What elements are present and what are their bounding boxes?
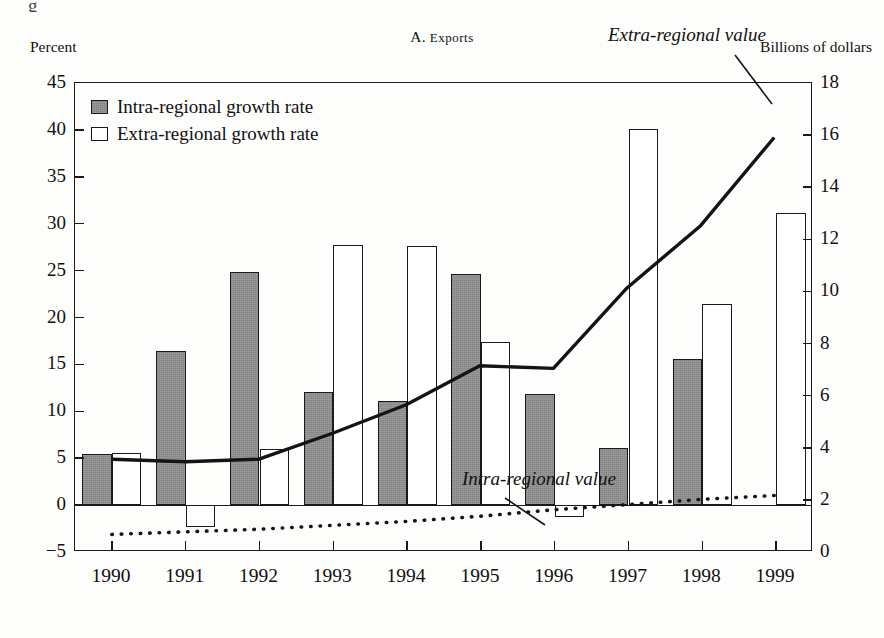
right-tick-label-12: 12 <box>820 228 876 247</box>
plot-area: Intra-regional growth rate Extra-regiona… <box>74 82 812 551</box>
right-tick-label-14: 14 <box>820 176 876 195</box>
panel-title-prefix: A. <box>410 28 430 45</box>
right-tick-2 <box>803 499 812 501</box>
right-tick-label-6: 6 <box>820 385 876 404</box>
left-tick-25 <box>75 270 84 272</box>
x-tick-1992 <box>259 541 261 551</box>
figure-panel-a-exports: g A. Exports Percent Billions of dollars… <box>0 0 884 638</box>
x-tick-label-1994: 1994 <box>366 566 446 586</box>
bar-intra-1994 <box>378 401 408 505</box>
legend-swatch-filled-square <box>91 100 108 114</box>
left-axis-caption: Percent <box>30 38 76 56</box>
x-tick-label-1993: 1993 <box>292 566 372 586</box>
right-tick-12 <box>803 239 812 241</box>
left-tick-label-35: 35 <box>10 166 66 185</box>
left-tick-5 <box>75 457 84 459</box>
x-tick-1999 <box>775 541 777 551</box>
right-tick-14 <box>803 186 812 188</box>
left-tick-label-40: 40 <box>10 119 66 138</box>
x-tick-label-1995: 1995 <box>440 566 520 586</box>
x-tick-label-1997: 1997 <box>588 566 668 586</box>
x-tick-label-1992: 1992 <box>219 566 299 586</box>
left-tick-label-25: 25 <box>10 260 66 279</box>
bar-extra-1999 <box>776 213 806 505</box>
right-tick-label-4: 4 <box>820 437 876 456</box>
left-tick-label-20: 20 <box>10 307 66 326</box>
bar-extra-1996 <box>555 505 585 517</box>
bar-extra-1997 <box>629 129 659 505</box>
left-tick-35 <box>75 176 84 178</box>
right-tick-label-16: 16 <box>820 124 876 143</box>
left-tick-label-30: 30 <box>10 213 66 232</box>
left-tick-0 <box>75 504 84 506</box>
chart-legend: Intra-regional growth rate Extra-regiona… <box>91 93 319 147</box>
x-tick-1996 <box>554 541 556 551</box>
legend-label-extra: Extra-regional growth rate <box>117 120 319 147</box>
bar-intra-1998 <box>673 359 703 505</box>
left-tick-label-5: 5 <box>10 447 66 466</box>
legend-item-extra: Extra-regional growth rate <box>91 120 319 147</box>
right-axis-caption: Billions of dollars <box>760 38 872 56</box>
x-tick-label-1998: 1998 <box>661 566 741 586</box>
left-tick-label-−5: −5 <box>10 541 66 560</box>
right-tick-label-0: 0 <box>820 541 876 560</box>
x-tick-1995 <box>480 541 482 551</box>
right-tick-16 <box>803 134 812 136</box>
x-tick-label-1991: 1991 <box>145 566 225 586</box>
x-tick-1997 <box>628 541 630 551</box>
x-tick-1994 <box>406 541 408 551</box>
right-tick-label-18: 18 <box>820 72 876 91</box>
right-tick-label-10: 10 <box>820 280 876 299</box>
left-tick-label-15: 15 <box>10 353 66 372</box>
left-tick-10 <box>75 411 84 413</box>
plot-inner <box>75 83 811 550</box>
bar-extra-1993 <box>333 245 363 505</box>
bar-intra-1992 <box>230 272 260 505</box>
x-tick-1998 <box>702 541 704 551</box>
left-tick-label-0: 0 <box>10 494 66 513</box>
bar-extra-1990 <box>112 453 142 506</box>
x-tick-1991 <box>185 541 187 551</box>
legend-label-intra: Intra-regional growth rate <box>117 93 313 120</box>
bar-intra-1991 <box>156 351 186 505</box>
bar-intra-1990 <box>82 454 112 505</box>
bar-extra-1994 <box>407 246 437 505</box>
x-tick-label-1990: 1990 <box>71 566 151 586</box>
bar-extra-1991 <box>186 505 216 527</box>
right-tick-8 <box>803 343 812 345</box>
cropped-caption-fragment: g <box>28 0 148 12</box>
right-tick-6 <box>803 395 812 397</box>
left-tick-label-10: 10 <box>10 400 66 419</box>
panel-title-smallcaps: Exports <box>430 30 474 45</box>
annotation-intra-regional-value: Intra-regional value <box>462 468 616 490</box>
left-tick-40 <box>75 129 84 131</box>
right-tick-label-2: 2 <box>820 489 876 508</box>
bar-extra-1998 <box>702 304 732 505</box>
left-tick-15 <box>75 364 84 366</box>
x-tick-label-1999: 1999 <box>735 566 815 586</box>
right-tick-label-8: 8 <box>820 333 876 352</box>
bar-intra-1993 <box>304 392 334 505</box>
bar-extra-1992 <box>260 449 290 505</box>
x-tick-label-1996: 1996 <box>514 566 594 586</box>
left-tick-20 <box>75 317 84 319</box>
annotation-extra-regional-value: Extra-regional value <box>608 24 766 46</box>
right-tick-10 <box>803 291 812 293</box>
legend-item-intra: Intra-regional growth rate <box>91 93 319 120</box>
left-tick-label-45: 45 <box>10 72 66 91</box>
x-tick-1993 <box>333 541 335 551</box>
left-tick-30 <box>75 223 84 225</box>
right-tick-4 <box>803 447 812 449</box>
legend-swatch-open-square <box>91 127 108 141</box>
x-tick-1990 <box>111 541 113 551</box>
